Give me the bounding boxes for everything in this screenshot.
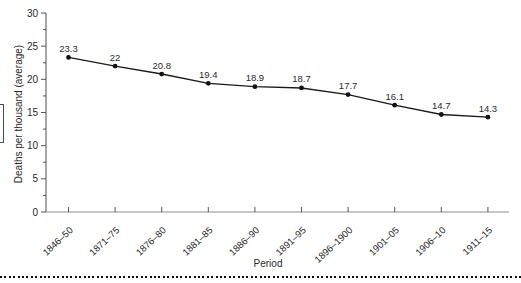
y-tick-label: 5 — [32, 173, 38, 184]
y-axis-title: Deaths per thousand (average) — [13, 14, 27, 214]
y-tick-label: 15 — [27, 107, 39, 118]
y-tick-label: 20 — [27, 74, 39, 85]
data-point-label: 14.7 — [432, 100, 451, 111]
data-point-label: 17.7 — [339, 80, 358, 91]
y-tick-label: 25 — [27, 41, 39, 52]
data-point-marker — [113, 64, 118, 69]
data-point-label: 19.4 — [199, 69, 218, 80]
y-tick-label: 30 — [27, 8, 39, 19]
dotted-separator-rule — [0, 276, 521, 278]
x-tick-label: 1911–15 — [460, 224, 494, 257]
data-point-marker — [159, 72, 164, 77]
x-tick-label: 1906–10 — [413, 224, 448, 257]
data-line — [69, 57, 488, 117]
data-point-label: 22 — [110, 52, 121, 63]
data-point-marker — [253, 84, 258, 89]
data-point-label: 18.9 — [246, 72, 265, 83]
data-point-marker — [299, 86, 304, 91]
x-tick-label: 1886–90 — [227, 224, 262, 257]
x-tick-label: 1876–80 — [134, 224, 169, 257]
data-point-label: 16.1 — [385, 91, 404, 102]
data-point-label: 18.7 — [292, 73, 311, 84]
data-point-marker — [486, 115, 491, 120]
data-point-label: 20.8 — [152, 60, 171, 71]
data-point-marker — [206, 81, 211, 86]
data-point-marker — [346, 92, 351, 97]
x-tick-label: 1891–95 — [273, 224, 308, 257]
y-tick-label: 10 — [27, 140, 39, 151]
x-tick-label: 1871–75 — [87, 224, 122, 257]
x-tick-label: 1901–05 — [367, 224, 402, 257]
data-point-marker — [392, 103, 397, 108]
data-point-marker — [439, 112, 444, 117]
data-point-label: 14.3 — [479, 103, 498, 114]
data-point-label: 23.3 — [59, 43, 78, 54]
mortality-line-chart-figure: 0510152025301846–501871–751876–801881–85… — [0, 0, 521, 283]
data-point-marker — [66, 55, 71, 60]
y-tick-label: 0 — [32, 207, 38, 218]
x-tick-label: 1881–85 — [180, 224, 215, 257]
line-chart-canvas: 0510152025301846–501871–751876–801881–85… — [0, 0, 521, 272]
x-tick-label: 1846–50 — [40, 224, 75, 257]
x-tick-label: 1896–1900 — [312, 224, 354, 264]
x-axis-title: Period — [218, 258, 318, 269]
